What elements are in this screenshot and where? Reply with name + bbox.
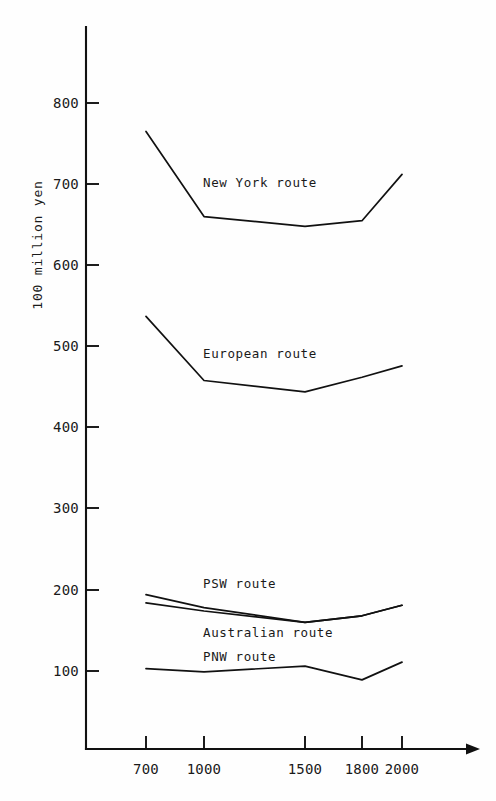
x-tick-label-1000: 1000 [187,761,222,777]
arrow-right-icon [466,744,480,755]
series-label-psw: PSW route [203,576,276,591]
x-tick-label-2000: 2000 [385,761,420,777]
x-tick-label-1800: 1800 [345,761,380,777]
y-tick-label-600: 600 [53,257,79,273]
y-tick-label-400: 400 [53,419,79,435]
y-tick-label-200: 200 [53,582,79,598]
y-tick-label-100: 100 [53,663,79,679]
y-axis-title: 100 million yen [30,180,45,309]
line-chart-figure: 800 700 600 500 400 300 200 100 700 1000… [0,0,496,801]
y-tick-label-800: 800 [53,95,79,111]
series-label-new-york: New York route [203,175,317,190]
x-tick-label-1500: 1500 [288,761,323,777]
y-tick-label-700: 700 [53,176,79,192]
y-tick-label-300: 300 [53,500,79,516]
series-label-pnw: PNW route [203,649,276,664]
series-label-australian: Australian route [203,625,333,640]
y-tick-label-500: 500 [53,338,79,354]
series-label-european: European route [203,346,317,361]
x-tick-label-700: 700 [133,761,159,777]
chart-canvas: 800 700 600 500 400 300 200 100 700 1000… [0,0,496,801]
series-line-pnw [146,662,402,680]
series-line-australian [146,603,402,623]
